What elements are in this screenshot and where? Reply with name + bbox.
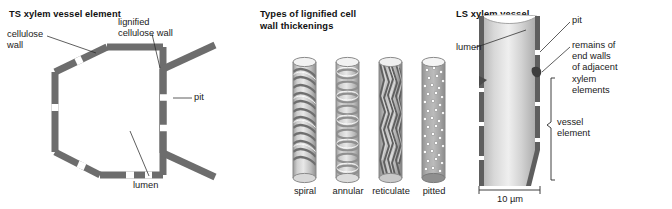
ts-adjacent-cell-walls bbox=[163, 45, 215, 177]
label-lignified-cellulose-wall: lignified cellulose wall bbox=[118, 17, 173, 39]
ts-cell-wall-outline bbox=[55, 47, 163, 175]
label-ls-vessel-element: vessel element bbox=[557, 117, 590, 139]
cylinder-spiral bbox=[293, 57, 316, 182]
cylinders-svg bbox=[228, 0, 454, 209]
label-pit: pit bbox=[194, 92, 204, 103]
ls-vessel-element-bracket bbox=[547, 78, 555, 180]
label-cellulose-wall: cellulose wall bbox=[7, 29, 43, 51]
cylinder-reticulate bbox=[379, 57, 403, 182]
leader-ls-pit bbox=[540, 22, 570, 52]
label-lumen: lumen bbox=[133, 180, 158, 191]
ls-pit-gap bbox=[535, 50, 540, 55]
panel-ts-xylem-vessel-element: TS xylem vessel element bbox=[0, 0, 228, 209]
cylinder-pitted bbox=[422, 57, 445, 182]
scale-bar-label: 10 µm bbox=[480, 194, 540, 204]
label-ls-lumen: lumen bbox=[456, 42, 481, 53]
leader-lumen bbox=[130, 131, 149, 176]
leader-ls-remains bbox=[542, 47, 570, 72]
leader-cellulose-wall bbox=[47, 36, 96, 53]
label-ls-remains-end-walls: remains of end walls of adjacent xylem e… bbox=[572, 40, 618, 96]
panel-ls-xylem-vessel: LS xylem vessel bbox=[454, 0, 672, 209]
label-ls-pit: pit bbox=[572, 15, 582, 26]
cylinder-annular bbox=[336, 57, 359, 182]
xylem-vessel-figure: TS xylem vessel element bbox=[0, 0, 672, 209]
ls-scale-bar bbox=[479, 186, 540, 194]
ls-vessel-svg bbox=[454, 0, 672, 209]
panel-types-of-thickenings: Types of lignified cell wall thickenings bbox=[228, 0, 454, 209]
ls-vessel-body bbox=[482, 15, 537, 187]
